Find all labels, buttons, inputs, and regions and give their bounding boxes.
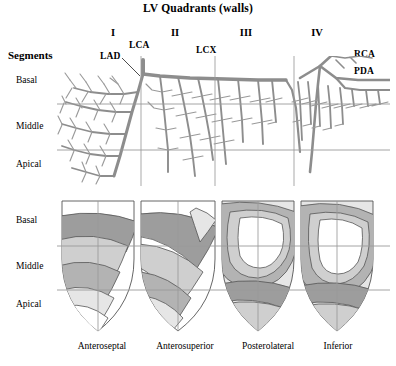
wall-shape-anteroseptal <box>56 201 138 340</box>
lad-leader-line <box>122 58 140 76</box>
wall-shape-posterolateral <box>215 201 298 336</box>
lower-panel-wall-shapes <box>56 201 379 340</box>
upper-panel-arterial-tree <box>58 56 390 184</box>
lv-quadrants-figure: LV Quadrants (walls) I II III IV LCA LAD… <box>0 0 396 366</box>
